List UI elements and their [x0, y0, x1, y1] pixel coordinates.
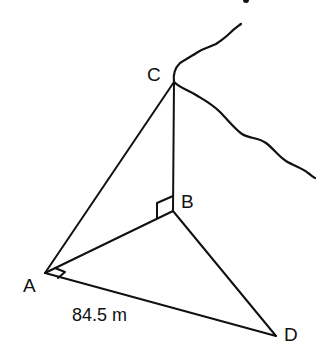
geometry-diagram: C B A D 84.5 m: [0, 0, 332, 355]
label-B: B: [181, 191, 194, 212]
cropped-text-fragment: [243, 0, 249, 3]
measurement-AD: 84.5 m: [72, 305, 127, 325]
segment-BD: [173, 211, 276, 336]
label-C: C: [147, 64, 161, 85]
segment-BC: [173, 82, 174, 211]
segment-AB: [45, 211, 173, 273]
segment-AC: [45, 82, 174, 273]
label-D: D: [284, 324, 298, 345]
cliff-edge-lower: [174, 82, 315, 178]
cliff-edge-upper: [174, 24, 241, 82]
label-A: A: [23, 275, 36, 296]
